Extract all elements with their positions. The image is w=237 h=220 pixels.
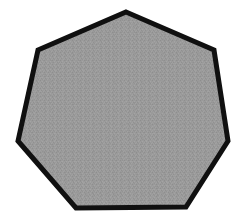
figure-canvas	[0, 0, 237, 220]
heptagon-shape-svg	[0, 0, 237, 220]
